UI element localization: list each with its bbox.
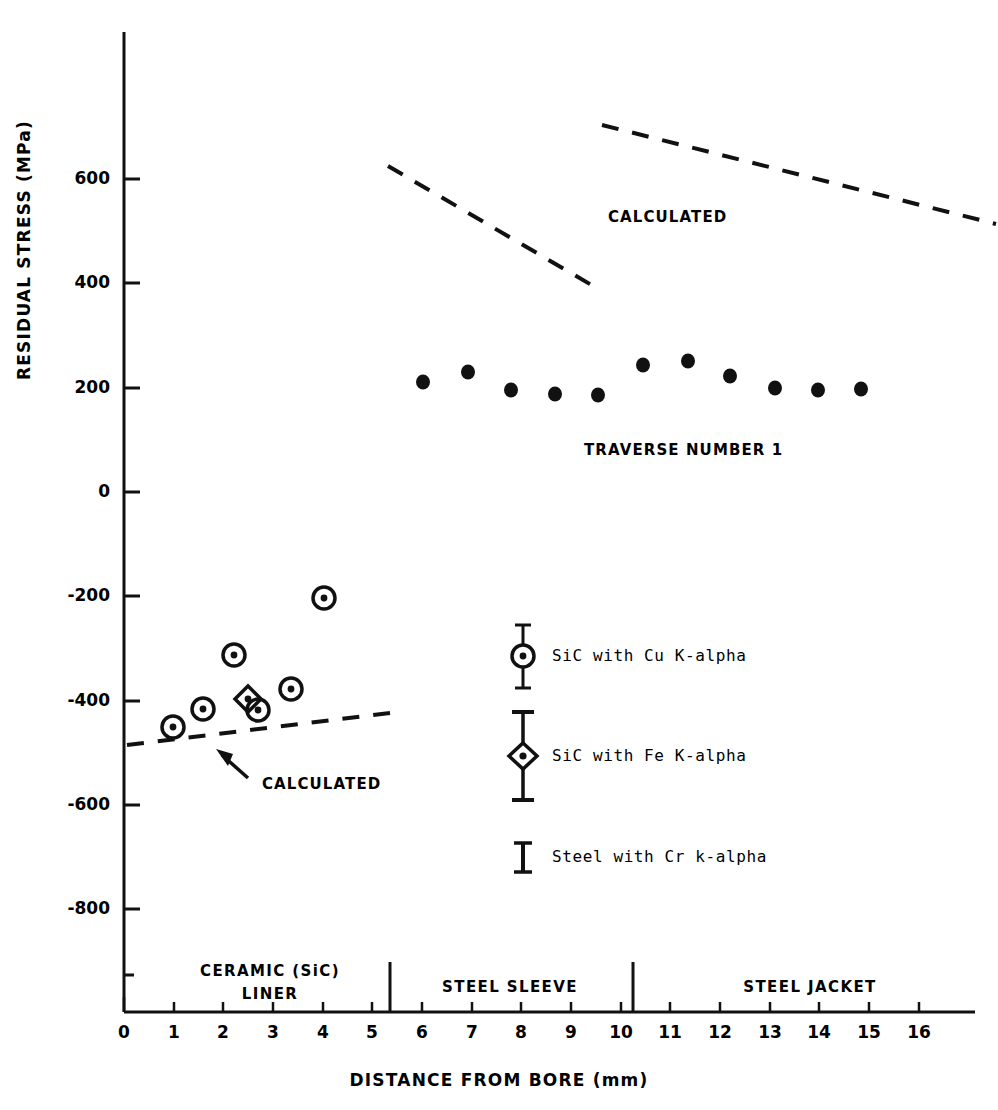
- legend-label-sic-fe: SiC with Fe K-alpha: [552, 746, 746, 765]
- region-label-ceramic-line2: LINER: [140, 985, 400, 1003]
- annotation-calculated-lower: CALCULATED: [262, 775, 381, 793]
- annotation-traverse-number: TRAVERSE NUMBER 1: [584, 441, 783, 459]
- x-axis-title: DISTANCE FROM BORE (mm): [0, 1070, 998, 1090]
- y-tick-label--200: -200: [24, 585, 110, 605]
- x-tick-label-1: 1: [154, 1022, 194, 1042]
- x-tick-label-0: 0: [104, 1022, 144, 1042]
- annotation-calculated-upper: CALCULATED: [608, 208, 727, 226]
- series-sic-cu-markers: [162, 587, 335, 738]
- y-axis-ticks: [124, 179, 140, 975]
- y-tick-label-400: 400: [24, 272, 110, 292]
- x-tick-label-2: 2: [203, 1022, 243, 1042]
- x-tick-label-6: 6: [402, 1022, 442, 1042]
- region-label-steel-jacket: STEEL JACKET: [700, 978, 920, 996]
- y-tick-label--400: -400: [24, 690, 110, 710]
- x-tick-label-3: 3: [253, 1022, 293, 1042]
- x-tick-label-15: 15: [849, 1022, 889, 1042]
- series-steel-cr-markers: [416, 354, 868, 403]
- legend-label-steel-cr: Steel with Cr k-alpha: [552, 847, 767, 866]
- y-tick-label--600: -600: [24, 794, 110, 814]
- region-label-ceramic-line1: CERAMIC (SiC): [140, 962, 400, 980]
- y-tick-label--800: -800: [24, 898, 110, 918]
- x-tick-label-5: 5: [352, 1022, 392, 1042]
- legend-marker-sic-fe: [509, 712, 537, 800]
- region-label-steel-sleeve: STEEL SLEEVE: [400, 978, 620, 996]
- axis-lines: [124, 32, 975, 1012]
- x-tick-label-13: 13: [750, 1022, 790, 1042]
- y-tick-label-600: 600: [24, 168, 110, 188]
- legend-marker-steel-cr: [514, 843, 532, 872]
- y-axis-title: RESIDUAL STRESS (MPa): [14, 80, 34, 380]
- x-tick-label-12: 12: [700, 1022, 740, 1042]
- x-tick-label-4: 4: [303, 1022, 343, 1042]
- x-tick-label-11: 11: [650, 1022, 690, 1042]
- residual-stress-chart: [0, 0, 998, 1110]
- x-tick-label-9: 9: [551, 1022, 591, 1042]
- x-tick-label-16: 16: [899, 1022, 939, 1042]
- y-tick-label-200: 200: [24, 377, 110, 397]
- calculated-arrow: [216, 749, 248, 778]
- x-tick-label-14: 14: [799, 1022, 839, 1042]
- calculated-line-sleeve: [388, 166, 600, 290]
- legend-label-sic-cu: SiC with Cu K-alpha: [552, 646, 746, 665]
- x-tick-label-10: 10: [601, 1022, 641, 1042]
- x-tick-label-7: 7: [452, 1022, 492, 1042]
- x-tick-label-8: 8: [501, 1022, 541, 1042]
- legend-marker-sic-cu: [512, 625, 534, 688]
- y-tick-label-0: 0: [24, 481, 110, 501]
